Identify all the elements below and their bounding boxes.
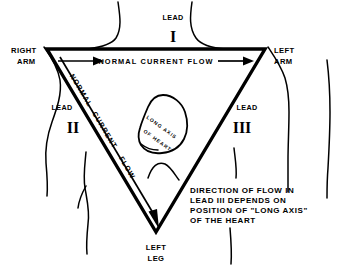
right-arm-label-line1: RIGHT: [11, 46, 37, 55]
left-hip-tick: [78, 186, 86, 208]
left-arm-label-line1: LEFT: [274, 46, 295, 55]
left-arm-label-line2: ARM: [274, 57, 293, 66]
note-line-4: OF THE HEART: [190, 216, 256, 225]
neck-left-curve: [88, 2, 120, 49]
lead-i-numeral: I: [170, 28, 176, 45]
lead-ii-numeral: II: [67, 119, 79, 136]
direction-note-block: DIRECTION OF FLOW IN LEAD III DEPENDS ON…: [190, 186, 308, 225]
diaphragm-curve: [148, 163, 179, 180]
limb-labels-group: RIGHT ARM LEFT ARM LEFT LEG: [11, 46, 295, 263]
note-line-1: DIRECTION OF FLOW IN: [190, 186, 294, 195]
einthoven-triangle-diagram: LONG AXIS OF HEART RIGHT ARM LEFT A: [0, 0, 355, 275]
lead-iii-word: LEAD: [236, 103, 257, 112]
left-leg-label-line2: LEG: [148, 254, 165, 263]
note-line-2: LEAD III DEPENDS ON: [190, 196, 286, 205]
lead-ii-word: LEAD: [51, 103, 72, 112]
neck-right-curve: [191, 2, 226, 49]
heart-axis-text-group: LONG AXIS OF HEART: [142, 114, 178, 153]
lead-i-word: LEAD: [162, 13, 183, 22]
diagram-canvas: LONG AXIS OF HEART RIGHT ARM LEFT A: [0, 0, 355, 275]
left-leg-label-line1: LEFT: [146, 243, 167, 252]
lead-i-right-arrowhead: [243, 57, 254, 66]
right-leg-outline: [230, 228, 231, 264]
normal-current-flow-top-label: NORMAL CURRENT FLOW: [98, 57, 213, 66]
right-flank-line: [234, 148, 236, 178]
right-arm-outline: [268, 47, 289, 192]
right-body-outer-line: [327, 60, 330, 198]
right-arm-label-line2: ARM: [17, 57, 36, 66]
left-flank-line: [84, 152, 89, 254]
flow-diagonal-line3: FLOW: [117, 155, 137, 181]
note-line-3: POSITION OF "LONG AXIS": [190, 206, 308, 215]
lead-iii-numeral: III: [233, 119, 252, 136]
